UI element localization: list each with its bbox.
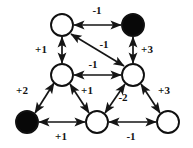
edge-label-n6-n7: -1 [126, 130, 135, 142]
graph-canvas: -1 -1 +1 +3 -1 +2 +1 -2 +3 +1 -1 [0, 0, 193, 148]
edge-label-n1-n4: -1 [99, 38, 108, 50]
edge-n3-n5 [35, 83, 54, 113]
graph-diagram: -1 -1 +1 +3 -1 +2 +1 -2 +3 +1 -1 [0, 0, 193, 148]
nodes-layer [16, 14, 179, 133]
edge-label-n1-n3: +1 [35, 43, 47, 55]
edge-label-n4-n6: -2 [118, 91, 128, 103]
edge-label-n2-n4: +3 [141, 43, 153, 55]
node-n3[interactable] [51, 64, 73, 86]
edge-label-n1-n2: -1 [92, 4, 101, 16]
node-n5[interactable] [16, 111, 38, 133]
edge-label-n5-n6: +1 [55, 130, 67, 142]
node-n1[interactable] [51, 14, 73, 36]
node-n2[interactable] [122, 14, 144, 36]
edge-label-n3-n5: +2 [16, 84, 28, 96]
node-n4[interactable] [122, 64, 144, 86]
edge-label-n4-n7: +3 [158, 84, 170, 96]
node-n7[interactable] [157, 111, 179, 133]
edge-label-n3-n4: -1 [88, 58, 97, 70]
edge-label-n3-n6: +1 [81, 84, 93, 96]
node-n6[interactable] [86, 111, 108, 133]
